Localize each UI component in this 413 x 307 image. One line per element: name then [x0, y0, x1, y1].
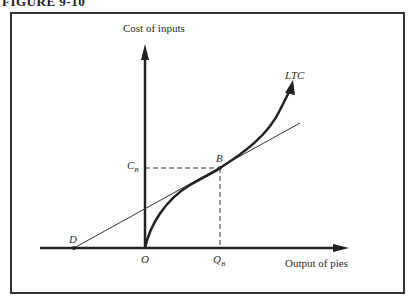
diagram-canvas	[0, 0, 413, 307]
ltc-arrow-icon	[285, 80, 295, 95]
y-axis-arrow-icon	[141, 44, 149, 60]
ltc-label: LTC	[285, 69, 304, 81]
origin-label: O	[141, 253, 149, 265]
point-b-label: B	[216, 152, 223, 164]
cb-label: CB	[127, 159, 139, 174]
x-axis-label: Output of pies	[285, 257, 348, 269]
qb-subscript: B	[221, 260, 225, 268]
qb-main: Q	[213, 253, 221, 265]
y-axis-label: Cost of inputs	[123, 22, 185, 34]
point-d-label: D	[69, 233, 77, 245]
cb-subscript: B	[134, 166, 138, 174]
qb-label: QB	[213, 253, 225, 268]
figure-frame	[11, 13, 404, 293]
x-axis-arrow-icon	[333, 244, 349, 252]
ltc-curve	[145, 90, 290, 248]
point-d-marker	[72, 246, 76, 250]
point-b-marker	[218, 166, 222, 170]
